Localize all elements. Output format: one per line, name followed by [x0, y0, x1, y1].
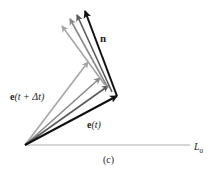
n-vector-lightest-arrow	[62, 26, 105, 85]
n-label: n	[100, 33, 106, 44]
panel-label: (c)	[103, 155, 114, 165]
e-t-label: e(t)	[87, 120, 101, 130]
L0-subscript: 0	[200, 147, 204, 155]
L0-label: L0	[194, 142, 203, 155]
e-t-plus-dt-argument: (t + Δt)	[14, 91, 44, 102]
e-t-argument: (t)	[91, 119, 100, 130]
e-vector-t-plus-dt-arrow	[25, 62, 88, 145]
e-t-plus-dt-label: e(t + Δt)	[10, 92, 44, 102]
